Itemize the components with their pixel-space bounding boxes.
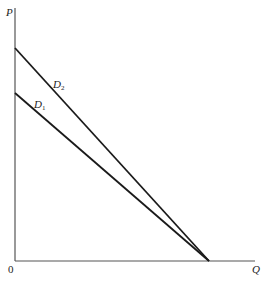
demand-curves-chart: P Q 0 D2 D1 (0, 0, 270, 284)
curve-label-d2-subscript: 2 (61, 84, 65, 92)
demand-curve-d1 (15, 93, 209, 261)
curve-label-d1: D1 (33, 98, 46, 112)
y-axis-label: P (5, 6, 13, 18)
curve-label-d1-base: D (33, 98, 42, 110)
demand-curve-d2 (15, 48, 209, 261)
origin-label: 0 (8, 263, 14, 275)
curve-label-d2-base: D (52, 78, 61, 90)
curve-label-d1-subscript: 1 (42, 104, 46, 112)
x-axis-label: Q (252, 263, 260, 275)
curve-label-d2: D2 (52, 78, 65, 92)
